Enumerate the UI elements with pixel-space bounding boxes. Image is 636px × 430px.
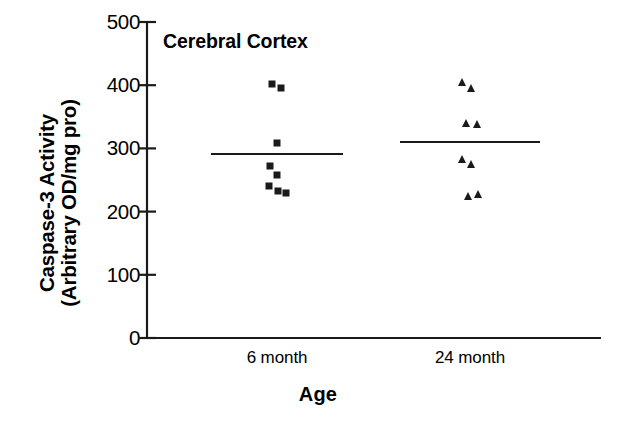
data-point-triangle: [467, 160, 475, 168]
data-point-triangle: [474, 190, 482, 198]
data-point-triangle: [458, 155, 466, 163]
x-tick-label: 24 month: [435, 348, 505, 368]
x-axis-title: Age: [0, 383, 636, 406]
data-point-triangle: [458, 78, 466, 86]
mean-line: [400, 141, 540, 143]
data-point-triangle: [467, 84, 475, 92]
data-point-square: [278, 84, 285, 91]
data-point-square: [269, 80, 276, 87]
data-point-square: [274, 171, 281, 178]
data-point-triangle: [464, 192, 472, 200]
data-point-square: [274, 140, 281, 147]
data-point-square: [283, 189, 290, 196]
data-point-triangle: [462, 119, 470, 127]
mean-line: [211, 153, 343, 155]
data-point-triangle: [473, 120, 481, 128]
chart-title: Cerebral Cortex: [163, 30, 308, 53]
chart-figure: Caspase-3 Activity (Arbitrary OD/mg pro)…: [0, 0, 636, 430]
x-tick-label: 6 month: [247, 348, 308, 368]
data-point-square: [266, 183, 273, 190]
data-point-square: [267, 163, 274, 170]
data-point-square: [275, 188, 282, 195]
chart-axes: [0, 0, 636, 430]
